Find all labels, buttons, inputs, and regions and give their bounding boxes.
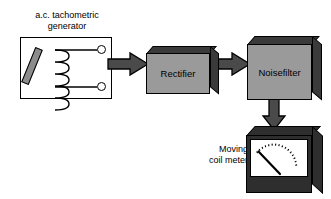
noise-filter-label-line1: Noise (258, 67, 282, 78)
block-diagram-canvas: a.c. tachometricgenerator Rectifier Nois… (0, 0, 331, 199)
arrow-generator-to-rectifier (108, 52, 150, 78)
terminal-bottom-icon (97, 82, 106, 91)
terminal-top-icon (97, 45, 106, 54)
rectifier-block-side (210, 46, 219, 95)
meter-label-line2: coil meter (209, 155, 248, 165)
moving-coil-meter (246, 126, 326, 194)
noise-filter-block: Noisefilter (247, 36, 323, 100)
noise-filter-label-line2: filter (283, 67, 301, 78)
meter-side-bezel (312, 126, 323, 194)
meter-label-line1: Moving (219, 144, 248, 154)
rectifier-block: Rectifier (146, 46, 220, 94)
rectifier-label: Rectifier (146, 53, 210, 94)
meter-dial-icon (250, 139, 308, 177)
noise-filter-label: Noisefilter (247, 44, 312, 100)
moving-coil-meter-label: Movingcoil meter (186, 144, 248, 166)
noise-filter-block-side (312, 36, 322, 100)
